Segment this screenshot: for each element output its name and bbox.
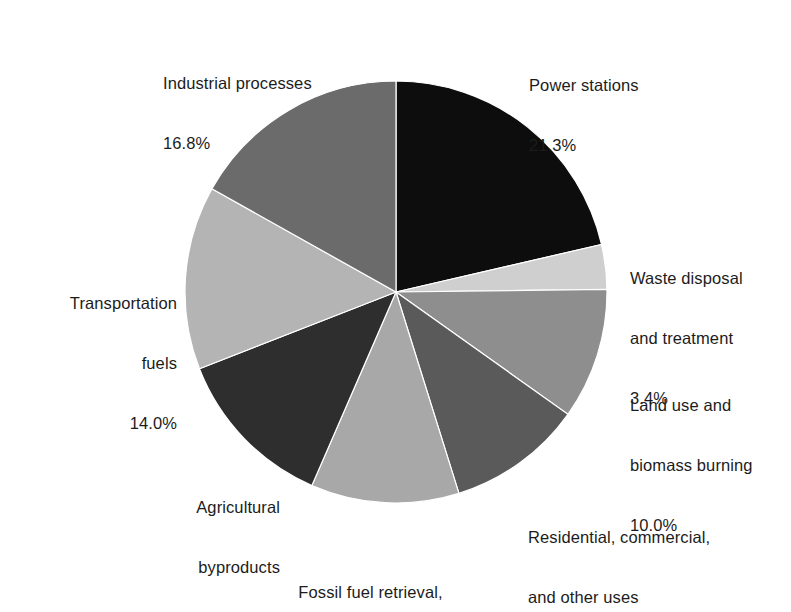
slice-label-name: Power stations [529,75,639,95]
slice-label-line1: Waste disposal [630,268,743,288]
slice-label-residential: Residential, commercial, and other uses … [528,487,710,612]
slice-label-line1: Residential, commercial, [528,527,710,547]
slice-label-line1: Agricultural [110,497,280,517]
pie-chart: Power stations 21.3% Waste disposal and … [0,0,791,612]
slice-label-agricultural: Agricultural byproducts 12.5% [110,457,280,612]
slice-label-value: 16.8% [163,133,312,153]
slice-label-industrial: Industrial processes 16.8% [163,33,312,193]
slice-label-value: 21.3% [529,135,639,155]
slice-label-name: Industrial processes [163,73,312,93]
slice-label-line1: Land use and [630,395,753,415]
slice-label-line2: fuels [25,353,177,373]
slice-label-line2: byproducts [110,557,280,577]
slice-label-power-stations: Power stations 21.3% [529,35,639,195]
slice-label-line2: biomass burning [630,455,753,475]
slice-label-line1: Transportation [25,293,177,313]
slice-label-line2: and other uses [528,587,710,607]
slice-label-transportation: Transportation fuels 14.0% [25,253,177,473]
slice-label-line1: Fossil fuel retrieval, [271,582,470,602]
slice-label-line2: and treatment [630,328,743,348]
slice-label-fossil-fuel: Fossil fuel retrieval, processing and di… [271,542,470,612]
slice-label-value: 14.0% [25,413,177,433]
